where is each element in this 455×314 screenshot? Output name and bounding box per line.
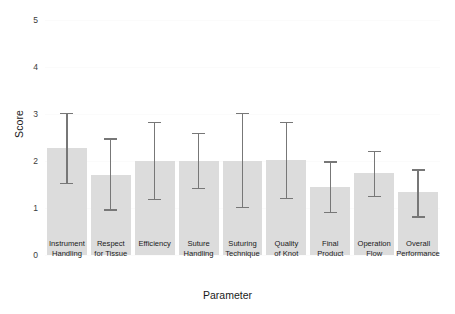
bar-series (45, 20, 440, 255)
bar-group (177, 20, 221, 255)
y-axis-title: Score (13, 89, 25, 159)
error-bar-cap-top (412, 169, 425, 170)
error-bar-cap-bottom (324, 212, 337, 213)
x-tick-label: SuturingTechnique (221, 239, 265, 258)
y-tick-label: 2 (33, 156, 38, 166)
error-bar-line (242, 113, 243, 207)
error-bar-cap-bottom (192, 188, 205, 189)
error-bar-cap-top (280, 122, 293, 123)
x-tick-label: Efficiency (133, 239, 177, 249)
y-tick-label: 1 (33, 203, 38, 213)
error-bar-cap-bottom (280, 198, 293, 199)
bar-group (352, 20, 396, 255)
x-tick-label: SutureHandling (177, 239, 221, 258)
error-bar-line (154, 122, 155, 199)
error-bar-cap-bottom (368, 196, 381, 197)
error-bar-cap-bottom (104, 209, 117, 210)
error-bar-cap-bottom (60, 183, 73, 184)
error-bar-line (330, 161, 331, 211)
y-tick-label: 0 (33, 250, 38, 260)
bar-group (264, 20, 308, 255)
bar-group (221, 20, 265, 255)
x-tick-label: Qualityof Knot (264, 239, 308, 258)
y-tick-label: 4 (33, 62, 38, 72)
y-tick-label: 3 (33, 109, 38, 119)
x-tick-label: FinalProduct (308, 239, 352, 258)
x-tick-label: OperationFlow (352, 239, 396, 258)
error-bar-line (417, 169, 418, 216)
x-axis-title: Parameter (0, 289, 455, 301)
error-bar-line (66, 113, 67, 183)
plot-area: 012345 (45, 20, 440, 255)
error-bar-cap-top (104, 138, 117, 139)
y-tick-label: 5 (33, 15, 38, 25)
error-bar-line (198, 133, 199, 188)
bar-chart: Score Parameter 012345 InstrumentHandlin… (0, 0, 455, 314)
x-tick-label: InstrumentHandling (45, 239, 89, 258)
bar-group (396, 20, 440, 255)
error-bar-line (286, 122, 287, 198)
error-bar-cap-top (236, 113, 249, 114)
error-bar-cap-top (368, 151, 381, 152)
error-bar-cap-bottom (412, 216, 425, 217)
x-tick-label: Respectfor Tissue (89, 239, 133, 258)
x-tick-label: OverallPerformance (396, 239, 440, 258)
bar-group (133, 20, 177, 255)
error-bar-cap-bottom (148, 199, 161, 200)
error-bar-cap-top (324, 161, 337, 162)
error-bar-line (374, 151, 375, 197)
error-bar-cap-top (192, 133, 205, 134)
error-bar-cap-bottom (236, 207, 249, 208)
bar-group (308, 20, 352, 255)
error-bar-line (110, 138, 111, 209)
bar-group (89, 20, 133, 255)
error-bar-cap-top (60, 113, 73, 114)
error-bar-cap-top (148, 122, 161, 123)
bar-group (45, 20, 89, 255)
